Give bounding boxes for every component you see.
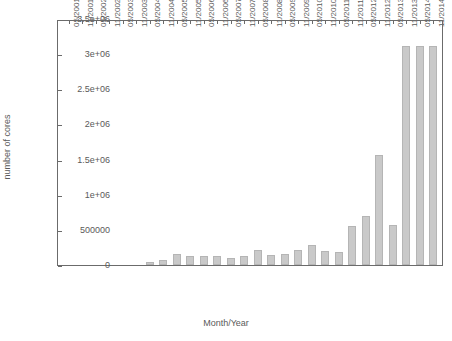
x-tick-label: 11/2006 [221, 0, 230, 27]
x-tick-label: 05/2009 [288, 0, 297, 27]
bar [335, 252, 343, 265]
y-tick-mark [58, 161, 62, 162]
x-tick-label: 05/2005 [180, 0, 189, 27]
y-tick-label: 2.5e+06 [77, 84, 110, 94]
x-tick-label: 05/2014 [423, 0, 432, 27]
x-tick-label: 11/2002 [113, 0, 122, 27]
plot-top-border [58, 20, 443, 21]
bar [429, 46, 437, 265]
bar [200, 256, 208, 265]
y-tick-mark [58, 125, 62, 126]
bar [254, 250, 262, 265]
bar [173, 254, 181, 265]
y-tick-label: 2e+06 [85, 119, 110, 129]
x-tick-label: 11/2005 [194, 0, 203, 27]
bar [321, 251, 329, 265]
bar [308, 245, 316, 265]
y-tick-mark [58, 196, 62, 197]
y-tick-mark [58, 90, 62, 91]
x-tick-label: 11/2009 [302, 0, 311, 27]
x-tick-label: 11/2004 [167, 0, 176, 27]
x-tick-label: 11/2001 [86, 0, 95, 27]
x-tick-label: 11/2008 [275, 0, 284, 27]
x-tick-label: 05/2012 [369, 0, 378, 27]
plot-right-border [442, 20, 443, 265]
y-tick-mark [58, 55, 62, 56]
x-tick-label: 05/2003 [126, 0, 135, 27]
x-tick-label: 05/2011 [342, 0, 351, 27]
x-tick-label: 05/2007 [234, 0, 243, 27]
bar [186, 256, 194, 265]
bar [389, 225, 397, 265]
bar [348, 226, 356, 265]
x-tick-label: 11/2012 [383, 0, 392, 27]
y-tick-label: 3e+06 [85, 49, 110, 59]
y-tick-label: 1.5e+06 [77, 155, 110, 165]
plot-area: 05000001e+061.5e+062e+062.5e+063e+063.5e… [57, 20, 443, 266]
x-tick-label: 05/2002 [99, 0, 108, 27]
bar [294, 250, 302, 265]
x-tick-label: 11/2011 [356, 0, 365, 27]
bar [159, 260, 167, 265]
y-tick-label: 0 [105, 260, 110, 270]
y-axis-title-text: number of cores [2, 92, 13, 202]
x-tick-label: 11/2013 [410, 0, 419, 27]
bar [416, 46, 424, 265]
x-tick-label: 05/2001 [72, 0, 81, 27]
bar [213, 256, 221, 265]
bar [402, 46, 410, 265]
y-tick-label: 1e+06 [85, 190, 110, 200]
x-tick-label: 05/2013 [396, 0, 405, 27]
bar [267, 255, 275, 265]
bar [240, 256, 248, 265]
x-tick-label: 05/2008 [261, 0, 270, 27]
bar [362, 216, 370, 265]
x-tick-label: 05/2010 [315, 0, 324, 27]
x-tick-label: 11/2010 [329, 0, 338, 27]
bar-chart: number of cores Month/Year 05000001e+061… [0, 0, 452, 341]
bar [375, 155, 383, 265]
x-tick-label: 11/2003 [140, 0, 149, 27]
bar [281, 254, 289, 265]
x-tick-label: 05/2006 [207, 0, 216, 27]
x-tick-label: 11/2007 [248, 0, 257, 27]
y-tick-mark [58, 231, 62, 232]
y-axis-title: number of cores [2, 0, 13, 92]
bar [227, 258, 235, 265]
x-tick-label: 05/2004 [153, 0, 162, 27]
y-tick-label: 500000 [80, 225, 110, 235]
x-axis-title: Month/Year [0, 318, 452, 328]
bar [146, 262, 154, 265]
y-tick-mark [58, 266, 62, 267]
